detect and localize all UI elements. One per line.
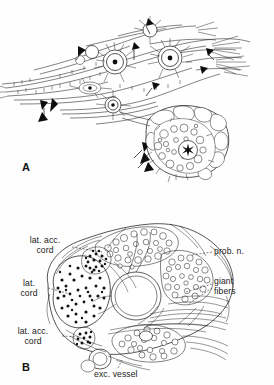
- label-prob-n: prob. n.: [214, 247, 244, 257]
- arrowhead-8: [50, 98, 58, 112]
- label-line-1: lat. acc.: [18, 326, 49, 336]
- nerve-bundle-cross-section: [120, 106, 229, 182]
- label-exc-vessel: exc. vessel: [94, 370, 138, 380]
- arrowhead-9: [38, 112, 48, 122]
- panel-a-drawing: [0, 0, 274, 196]
- label-line-1: giant: [214, 276, 233, 286]
- arrowhead-5: [200, 66, 208, 74]
- fiber-tracts: [2, 25, 250, 124]
- prob-n-cells: [163, 255, 210, 302]
- arrowhead-3: [132, 42, 140, 50]
- label-lat-acc-cord-upper: lat. acc.cord: [14, 236, 76, 256]
- panel-letter-b: B: [22, 361, 30, 373]
- lat-acc-cord-upper-stipple: [85, 250, 107, 273]
- lat-acc-cord-lower-stipple: [76, 331, 92, 345]
- label-line-2: cord: [36, 245, 53, 255]
- lat-acc-cord-lower: [73, 327, 95, 349]
- label-line-2: fibers: [214, 286, 236, 296]
- dorsal-cord: [95, 227, 178, 269]
- ventral-cord: [112, 325, 185, 363]
- dorsal-cord-cells: [105, 229, 172, 270]
- figure-canvas: lat. acc.cord lat.cord lat. acc.cord pro…: [0, 0, 274, 385]
- panel-letter-a: A: [22, 161, 30, 173]
- neuron-soma-1: [94, 42, 136, 82]
- neuron-soma-3: [70, 78, 112, 98]
- prob-n-cord: [161, 250, 214, 304]
- label-lat-cord: lat.cord: [8, 279, 50, 299]
- label-line-2: cord: [20, 288, 37, 298]
- label-giant-fibers: giantfibers: [214, 277, 236, 297]
- label-line-2: cord: [24, 336, 41, 346]
- arrowhead-2: [78, 46, 86, 56]
- panel-a: [0, 0, 274, 196]
- label-line-1: lat. acc.: [30, 235, 61, 245]
- label-lat-acc-cord-lower: lat. acc.cord: [2, 327, 64, 347]
- label-line-1: lat.: [23, 278, 35, 288]
